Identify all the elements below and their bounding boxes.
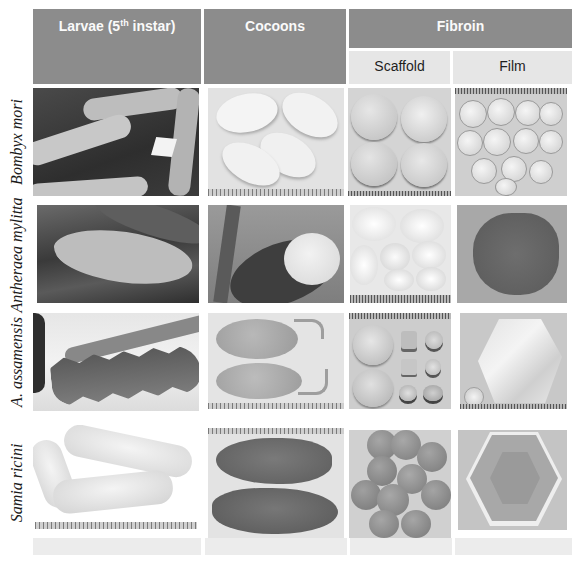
photo-mylitta-cocoons: [208, 205, 344, 303]
scaffold-piece: [380, 243, 410, 271]
film-disc: [513, 128, 539, 154]
scaffold-disc: [421, 480, 451, 510]
scale-ruler: [455, 88, 567, 94]
scaffold-disc: [351, 94, 397, 140]
scale-ruler: [208, 403, 344, 409]
larva-shape: [33, 176, 149, 196]
photo-assamensis-scaffold: [349, 313, 451, 409]
larva-shape: [33, 112, 134, 169]
scale-ruler: [350, 295, 451, 303]
photo-ricini-film: [458, 430, 567, 530]
species-label-bombyx-mori: Bombyx mori: [4, 88, 30, 196]
header-fibroin-label: Fibroin: [349, 9, 572, 34]
scaffold-disc: [401, 143, 447, 187]
bottom-band-scaffold: [350, 538, 452, 555]
scaffold-piece: [400, 209, 444, 243]
photo-mylitta-larvae: [37, 205, 199, 303]
scaffold-cube: [401, 331, 417, 349]
scaffold-cylinder: [423, 385, 443, 401]
scale-ruler: [208, 189, 344, 196]
photo-ricini-cocoons: [208, 428, 344, 538]
larva-shape: [82, 88, 184, 122]
scale-ruler: [35, 522, 197, 529]
film-disc: [471, 158, 497, 184]
bottom-band-cocoons: [205, 538, 347, 555]
scaffold-piece: [412, 241, 446, 269]
cocoon-shape: [216, 319, 298, 359]
scaffold-disc: [353, 325, 393, 365]
header-larvae-label: Larvae (5: [59, 18, 120, 34]
larva-shape: [61, 425, 195, 480]
photo-bombyx-scaffold: [348, 88, 451, 196]
photo-mylitta-film: [457, 205, 567, 303]
header-larvae: Larvae (5th instar): [33, 9, 201, 84]
cocoon-stalk: [294, 319, 324, 339]
photo-bombyx-film: [455, 88, 567, 196]
film-disc: [539, 130, 563, 154]
species-label-antheraea-mylitta: Antheraea mylitta: [4, 200, 30, 310]
scale-ruler: [208, 428, 344, 434]
cocoon-shape: [212, 488, 338, 534]
bottom-band-larvae: [33, 538, 201, 555]
header-cocoons-label: Cocoons: [204, 9, 346, 34]
photo-bombyx-larvae: [33, 88, 199, 196]
scaffold-cube: [401, 359, 417, 375]
subheader-film-label: Film: [453, 51, 572, 74]
film-disc: [459, 100, 487, 128]
scaffold-piece: [350, 245, 378, 285]
scaffold-piece: [384, 269, 414, 291]
photo-assamensis-larvae: [33, 313, 199, 411]
header-fibroin: Fibroin: [349, 9, 572, 48]
scaffold-disc: [351, 480, 381, 510]
cocoon-shape: [216, 438, 332, 484]
bottom-band-film: [455, 538, 572, 555]
scaffold-disc: [351, 142, 397, 186]
header-cocoons: Cocoons: [204, 9, 346, 84]
film-sheet: [473, 213, 559, 295]
scaffold-disc: [401, 96, 447, 142]
photo-assamensis-film: [460, 313, 567, 409]
scale-ruler: [349, 313, 451, 319]
film-disc: [487, 98, 515, 126]
film-disc: [515, 100, 541, 126]
scaffold-piece: [352, 207, 396, 241]
cocoon-stalk: [298, 369, 328, 395]
photo-assamensis-cocoons: [208, 313, 344, 409]
branch-shape: [33, 313, 45, 393]
photo-bombyx-cocoons: [208, 88, 344, 196]
photo-mylitta-scaffold: [350, 205, 451, 303]
film-sheet: [478, 319, 562, 403]
film-disc: [539, 102, 563, 126]
header-larvae-sup: th: [120, 18, 129, 28]
scaffold-cylinder: [425, 331, 443, 349]
photo-ricini-larvae: [33, 425, 199, 537]
cocoon-shape: [284, 233, 340, 285]
scaffold-disc: [369, 510, 399, 538]
cocoon-shape: [216, 363, 302, 399]
film-disc: [529, 160, 553, 184]
header-larvae-label-after: instar): [129, 18, 176, 34]
film-disc: [457, 130, 483, 156]
scaffold-cylinder: [425, 359, 441, 375]
scale-ruler: [348, 191, 451, 196]
scaffold-piece: [416, 267, 446, 291]
scaffold-cylinder: [399, 385, 417, 401]
subheader-scaffold-label: Scaffold: [349, 51, 450, 74]
subheader-scaffold: Scaffold: [349, 51, 450, 84]
species-label-samia-ricini: Samia ricini: [4, 425, 30, 540]
film-disc: [483, 128, 511, 156]
subheader-film: Film: [453, 51, 572, 84]
scaffold-disc: [401, 510, 431, 538]
cocoon-shape: [213, 88, 282, 138]
scale-ruler: [460, 404, 567, 409]
film-disc: [495, 178, 517, 196]
scaffold-disc: [353, 369, 393, 407]
photo-ricini-scaffold: [349, 430, 451, 538]
species-label-a-assamensis: A. assamensis: [4, 312, 30, 412]
